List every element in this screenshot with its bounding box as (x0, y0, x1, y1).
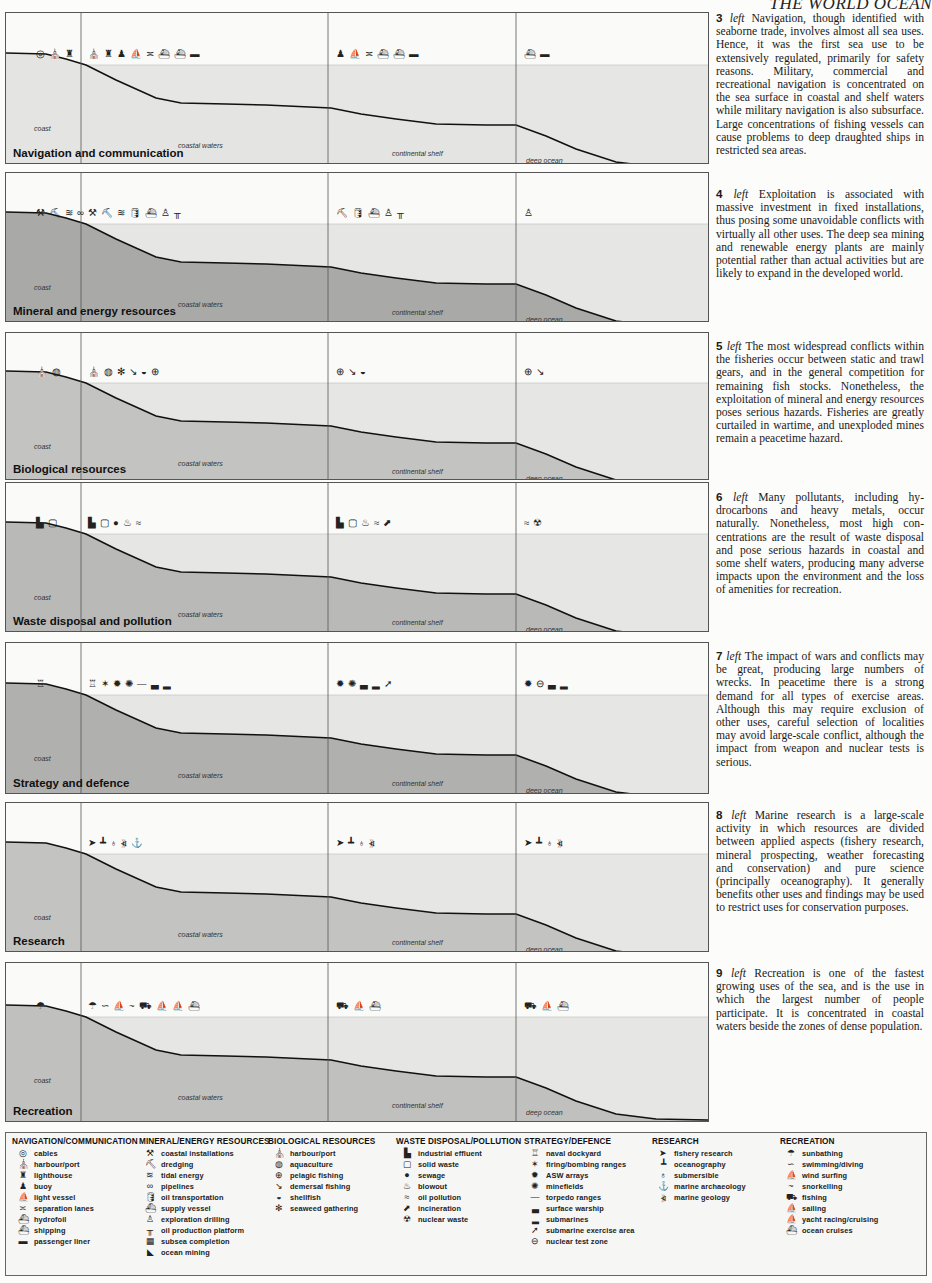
cable-reel-icon: ◎ (36, 49, 45, 59)
oil-slick-icon: ≈ (524, 518, 529, 528)
zone-label-coastal-waters: coastal waters (178, 1094, 223, 1101)
warship-icon: ▃ (548, 679, 556, 689)
zone-label-coastal-waters: coastal waters (178, 142, 223, 149)
zone-label-deep-ocean: deep ocean (526, 626, 563, 632)
fish-icon: ➤ (652, 1148, 674, 1159)
icon-row-coastal: ☂∽⛵~⛟⛵⛵⛴ (88, 1001, 200, 1011)
icon-row-deep: ⊕↘ (524, 367, 544, 377)
drill-rig-icon: ♙ (161, 208, 170, 218)
legend-label: subsea completion (161, 1237, 230, 1246)
fishing-boat-icon: ⛟ (336, 1001, 349, 1011)
legend-item: 🛢oil transportation (139, 1192, 270, 1203)
legend-label: minefields (546, 1182, 584, 1191)
icon-row-deep: ♙ (524, 208, 533, 218)
legend-item: ♖naval dockyard (524, 1148, 635, 1159)
crane-icon: ⚒ (36, 208, 45, 218)
sewage-icon: ● (113, 518, 119, 528)
legend-label: fishery research (674, 1149, 733, 1158)
caption-6: 6 left Many pollutants, including hy­dro… (716, 490, 924, 597)
legend-label: nuclear waste (418, 1215, 468, 1224)
mine-icon: ✺ (348, 679, 356, 689)
fishing-boat-icon: ⛟ (780, 1192, 802, 1203)
hydrofoil-icon: ⛴ (158, 49, 170, 59)
tidal-icon: ≋ (65, 208, 73, 218)
dockyard-icon: ♖ (36, 679, 45, 689)
legend-label: shellfish (290, 1193, 321, 1202)
shellfish-icon: ◒ (141, 367, 147, 377)
harbour-icon: ⛪ (88, 49, 100, 59)
caption-text: Marine research is a large-scale activit… (716, 809, 924, 914)
icon-row-coastal: ⛪♜♟⛵≍⛴⛴▬ (88, 49, 200, 59)
cross-section (6, 173, 709, 322)
torpedo-icon: — (524, 1192, 546, 1203)
icon-row-coast: ☂ (36, 1001, 45, 1011)
oil-transport-icon: 🛢 (139, 1192, 161, 1203)
hydrofoil-icon: ⛴ (12, 1214, 34, 1225)
legend-label: firing/bombing ranges (546, 1160, 626, 1169)
legend-item: ◒shellfish (268, 1192, 375, 1203)
legend-label: nuclear test zone (546, 1237, 608, 1246)
caption-text: Exploitation is associated with massive … (716, 188, 924, 280)
tidal-icon: ≋ (139, 1170, 161, 1181)
shell-icon: ◍ (104, 367, 113, 377)
drill-rig-icon: ♙ (139, 1214, 161, 1225)
zone-label-coast: coast (34, 284, 51, 291)
icon-row-coastal: ⚒⛏≋🛢⛴♙╥ (88, 208, 181, 218)
legend-label: aquaculture (290, 1160, 333, 1169)
windsurf-icon: ⛵ (780, 1170, 802, 1181)
cruise-icon: ⛴ (369, 1001, 381, 1011)
legend-heading: RESEARCH (652, 1137, 746, 1146)
legend-label: submersible (674, 1171, 719, 1180)
legend-label: exploration drilling (161, 1215, 230, 1224)
legend-item: ≍separation lanes (12, 1203, 138, 1214)
zone-label-coastal-waters: coastal waters (178, 772, 223, 779)
legend-label: pelagic fishing (290, 1171, 343, 1180)
oil-slick-icon: ≈ (374, 518, 379, 528)
legend-item: ✶firing/bombing ranges (524, 1159, 635, 1170)
legend-item: ☢nuclear waste (396, 1214, 521, 1225)
legend-label: industrial effluent (418, 1149, 482, 1158)
harbour-icon: ⛪ (88, 367, 100, 377)
legend-item: ⬈incineration (396, 1203, 521, 1214)
icon-row-shelf: ♟⛵≍⛴⛴▬ (336, 49, 419, 59)
separation-lanes-icon: ≍ (12, 1203, 34, 1214)
passenger-liner-icon: ▬ (190, 49, 200, 59)
supply-vessel-icon: ⛴ (139, 1203, 161, 1214)
lighthouse-icon: ♜ (65, 49, 74, 59)
legend-item: ∽swimming/diving (780, 1159, 878, 1170)
zone-label-deep-ocean: deep ocean (526, 157, 563, 164)
legend-item: ⚓marine archaeology (652, 1181, 746, 1192)
zone-label-coast: coast (34, 125, 51, 132)
subsea-icon: ▦ (139, 1236, 161, 1247)
wreck-icon: ⚓ (131, 838, 143, 848)
passenger-liner-icon: ▬ (409, 49, 419, 59)
legend-label: coastal installations (161, 1149, 234, 1158)
asw-icon: ✹ (113, 679, 121, 689)
icon-row-coastal: ♖✶✹✺—▃▂ (88, 679, 171, 689)
panel-navigation-and-communication: coastcoastal waterscontinental shelfdeep… (5, 12, 709, 164)
zone-label-coast: coast (34, 1077, 51, 1084)
legend-item: ⛴shipping (12, 1225, 138, 1236)
legend-label: ASW arrays (546, 1171, 589, 1180)
nuclear-test-icon: ⊖ (524, 1236, 546, 1247)
swimmer-icon: ∽ (780, 1159, 802, 1170)
panel-research: coastcoastal waterscontinental shelfdeep… (5, 802, 709, 952)
panel-title: Biological resources (13, 463, 126, 475)
cruise-icon: ⛴ (188, 1001, 200, 1011)
legend-label: incineration (418, 1204, 461, 1213)
submarine-icon: ▂ (524, 1214, 546, 1225)
legend-column-strategy-defence: STRATEGY/DEFENCE♖naval dockyard✶firing/b… (524, 1137, 635, 1247)
legend-column-biological-resources: BIOLOGICAL RESOURCES⛪harbour/port◍aquacu… (268, 1137, 375, 1214)
icon-row-coast: ◎⛪♜ (36, 49, 74, 59)
caption-number: 9 (716, 966, 731, 979)
legend-item: ⛏dredging (139, 1159, 270, 1170)
incineration-icon: ⬈ (396, 1203, 418, 1214)
legend-item: ▙industrial effluent (396, 1148, 521, 1159)
caption-direction: left (731, 967, 754, 980)
factory-icon: ▙ (36, 518, 44, 528)
zone-label-coast: coast (34, 443, 51, 450)
caption-number: 7 (716, 649, 726, 662)
separation-lanes-icon: ≍ (365, 49, 373, 59)
pipeline-icon: ∞ (77, 208, 84, 218)
waste-bag-icon: ▢ (100, 518, 109, 528)
